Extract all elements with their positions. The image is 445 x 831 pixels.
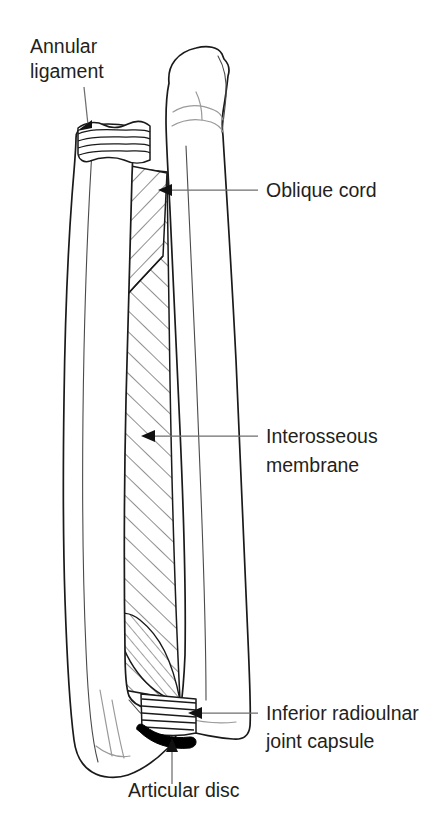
- leader-annular-ligament: [84, 87, 88, 125]
- ulna-outline: [166, 47, 250, 739]
- anatomy-diagram-svg: Annular ligament Oblique cord Interosseo…: [0, 0, 445, 831]
- label-annular-ligament-line1: Annular: [30, 35, 98, 57]
- label-interosseous-membrane-line1: Interosseous: [266, 425, 378, 447]
- label-annular-ligament-line2: ligament: [30, 60, 104, 82]
- label-articular-disc: Articular disc: [128, 779, 240, 801]
- anatomy-figure: Annular ligament Oblique cord Interosseo…: [0, 0, 445, 831]
- ulna-bone: [166, 47, 250, 739]
- label-interosseous-membrane-line2: membrane: [266, 454, 359, 476]
- label-inferior-radioulnar-joint-capsule-line2: joint capsule: [265, 730, 374, 752]
- label-oblique-cord: Oblique cord: [266, 179, 377, 201]
- label-inferior-radioulnar-joint-capsule-line1: Inferior radioulnar: [266, 702, 419, 724]
